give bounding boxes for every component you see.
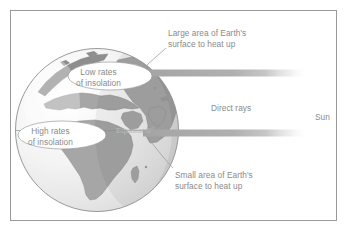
- label-large-area-line1: Large area of Earth's: [168, 28, 246, 39]
- insolation-diagram: Large area of Earth's surface to heat up…: [0, 0, 352, 234]
- label-small-area: Small area of Earth's surface to heat up: [175, 170, 253, 191]
- label-low-rates-of-insolation: Low rates of insolation: [76, 67, 121, 88]
- label-equator: Equator 0°: [116, 126, 154, 135]
- label-low-rates-line1: Low rates: [76, 67, 121, 78]
- label-large-area-line2: surface to heat up: [168, 39, 246, 50]
- label-direct-rays: Direct rays: [211, 103, 251, 114]
- lower-ray-band: [143, 130, 309, 137]
- label-small-area-line2: surface to heat up: [175, 181, 253, 192]
- label-high-rates-line2: of insolation: [28, 137, 73, 148]
- label-high-rates-line1: High rates: [28, 126, 73, 137]
- upper-ray-band: [143, 70, 309, 77]
- label-small-area-line1: Small area of Earth's: [175, 170, 253, 181]
- label-sun: Sun: [315, 112, 330, 123]
- label-low-rates-line2: of insolation: [76, 78, 121, 89]
- label-large-area: Large area of Earth's surface to heat up: [168, 28, 246, 49]
- label-high-rates-of-insolation: High rates of insolation: [28, 126, 73, 147]
